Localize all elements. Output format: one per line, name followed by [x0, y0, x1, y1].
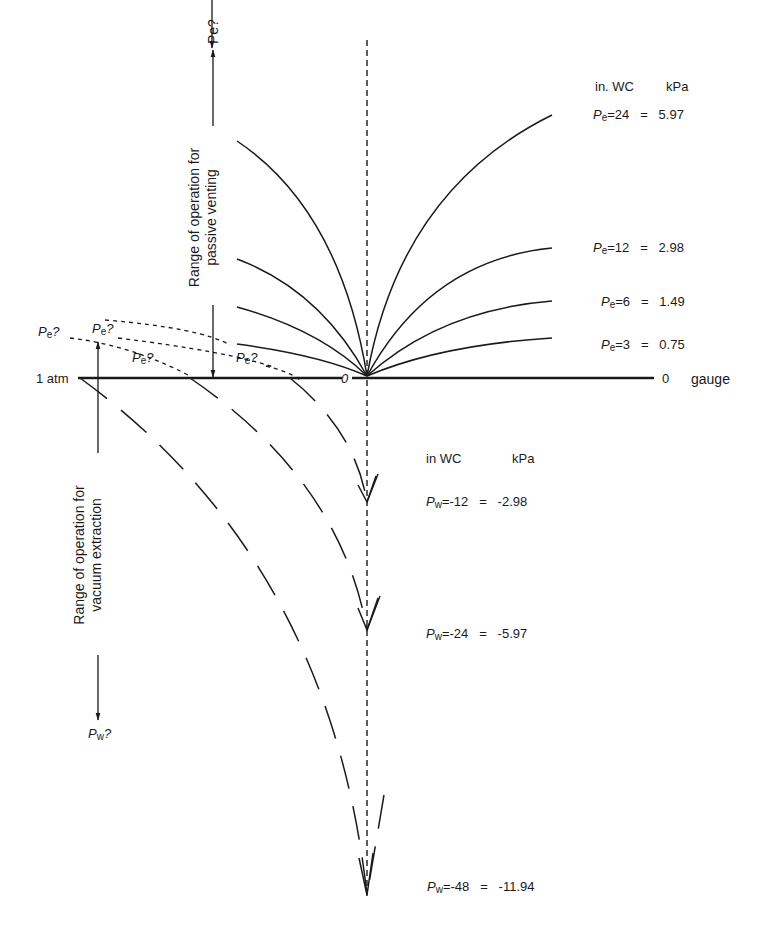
pe-12-label: Pe=12 = 2.98 — [593, 241, 684, 256]
unknown-pe-label-1: Pe? — [38, 325, 59, 340]
vacuum-header-kpa: kPa — [512, 452, 534, 465]
passive-range-label: Range of operation for passive venting — [186, 135, 220, 300]
curve-pe-12-right — [367, 248, 552, 376]
vacuum-header-inwc: in WC — [426, 452, 461, 465]
passive-header-kpa: kPa — [666, 80, 688, 93]
vacuum-curves — [80, 378, 384, 895]
vacuum-range-label: Range of operation for vacuum extraction — [71, 460, 105, 650]
pe-6-label: Pe=6 = 1.49 — [601, 295, 685, 310]
passive-axis-label: Pe? — [205, 19, 222, 44]
curve-pw-24-left — [190, 378, 367, 630]
passive-header-inwc: in. WC — [595, 80, 634, 93]
unknown-pe-label-3: Pe? — [132, 351, 153, 366]
unknown-pe-label-4: Pe? — [236, 351, 257, 366]
pw-12-label: Pw=-12 = -2.98 — [426, 495, 527, 510]
baseline-1atm-label: 1 atm — [36, 372, 69, 385]
baseline-origin-label: 0 — [341, 372, 348, 385]
pw-24-label: Pw=-24 = -5.97 — [426, 627, 527, 642]
diagram-canvas — [0, 0, 764, 926]
pe-3-label: Pe=3 = 0.75 — [601, 338, 685, 353]
curve-pw-12-left — [290, 378, 367, 502]
unknown-pe-label-2: Pe? — [92, 322, 113, 337]
pe-24-label: Pe=24 = 5.97 — [593, 108, 684, 123]
pw-48-label: Pw=-48 = -11.94 — [427, 880, 534, 895]
curve-pe-24-left — [237, 141, 367, 376]
curve-pe-6-right — [367, 301, 552, 376]
curve-pe-3-right — [367, 338, 552, 376]
curve-pe-24-right — [367, 115, 552, 376]
vacuum-axis-label: Pw? — [88, 727, 111, 742]
passive-curves — [237, 115, 552, 376]
vacuum-tips — [358, 474, 380, 895]
curve-pw-48-left — [80, 378, 367, 895]
baseline-gauge-label: gauge — [691, 372, 730, 386]
baseline-zero-label: 0 — [662, 372, 669, 385]
